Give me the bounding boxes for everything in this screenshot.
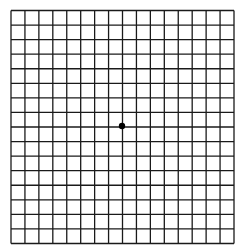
center-fixation-dot: [119, 123, 125, 129]
amsler-grid-diagram: [0, 0, 241, 248]
